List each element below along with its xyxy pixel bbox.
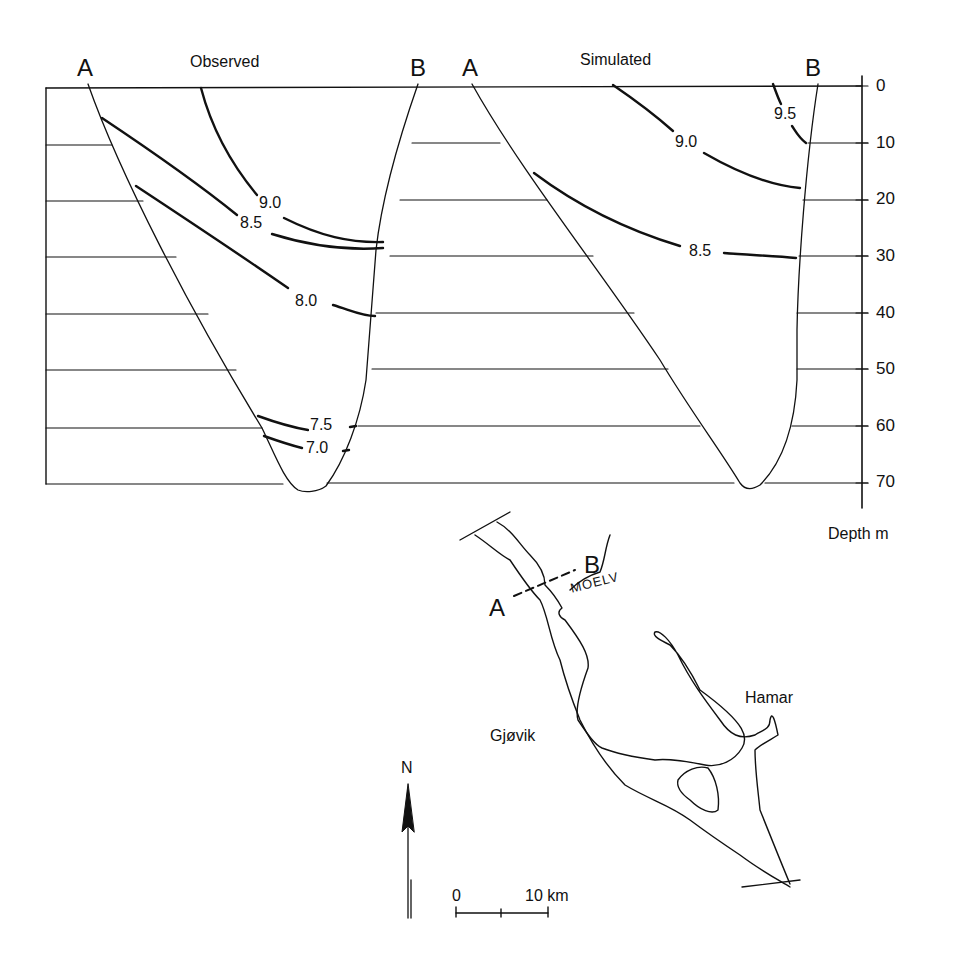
depth-tick-10: 10 [876, 134, 895, 151]
observed-isotherm-8-5: 8.5 [239, 215, 263, 231]
observed-isotherm-7-0: 7.0 [305, 440, 329, 456]
surface-line [46, 86, 862, 88]
scale-label-zero: 0 [452, 888, 461, 904]
scale-bar [456, 907, 548, 917]
scale-label-ten-km: 10 km [525, 888, 569, 904]
observed-isotherm-8-0: 8.0 [294, 293, 318, 309]
observed-basin-outline [88, 84, 418, 492]
simulated-title: Simulated [580, 52, 651, 68]
depth-tick-20: 20 [876, 190, 895, 207]
map-label-hamar: Hamar [745, 690, 793, 706]
depth-tick-50: 50 [876, 360, 895, 377]
map-section-a: A [489, 596, 505, 620]
depth-tick-30: 30 [876, 247, 895, 264]
simulated-isotherms [534, 84, 806, 258]
observed-title: Observed [190, 54, 259, 70]
section-line-ab [514, 570, 575, 596]
depth-tick-60: 60 [876, 417, 895, 434]
map-label-gjovik: Gjøvik [490, 728, 535, 744]
depth-tick-0: 0 [876, 77, 885, 94]
simulated-isotherm-8-5: 8.5 [688, 243, 712, 259]
north-label: N [401, 760, 413, 776]
north-arrow-icon [402, 784, 414, 918]
observed-isotherm-7-5: 7.5 [309, 417, 333, 433]
figure-canvas [0, 0, 958, 967]
simulated-end-a: A [462, 56, 478, 80]
simulated-isotherm-9-5: 9.5 [773, 106, 797, 122]
depth-tick-40: 40 [876, 304, 895, 321]
observed-isotherm-9-0: 9.0 [258, 195, 282, 211]
simulated-end-b: B [805, 56, 821, 80]
depth-tick-70: 70 [876, 473, 895, 490]
depth-axis-label: Depth m [828, 526, 888, 542]
observed-end-b: B [410, 56, 426, 80]
simulated-isotherm-9-0: 9.0 [674, 134, 698, 150]
simulated-basin-outline [472, 84, 818, 489]
observed-end-a: A [77, 56, 93, 80]
depth-gridlines [46, 143, 868, 484]
